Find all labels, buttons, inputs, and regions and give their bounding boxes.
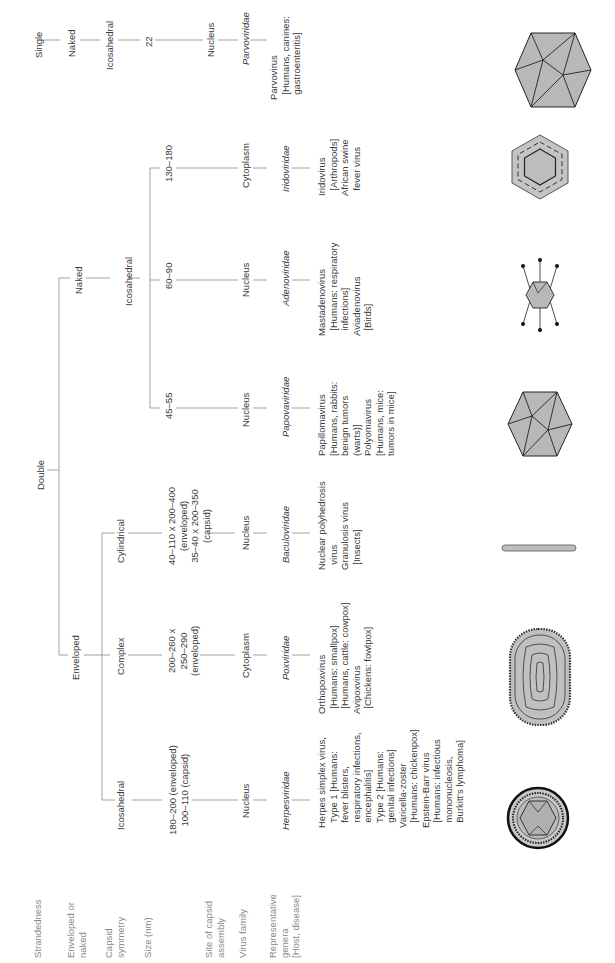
rod-icon: [502, 545, 576, 551]
icosahedron-icon: [508, 392, 572, 456]
virus-illustrations: [0, 0, 615, 963]
icosahedron-fibers-icon: [521, 258, 559, 332]
virus-classification-diagram: Strandedness Enveloped or naked Capsid s…: [0, 0, 615, 963]
brick-icon: [510, 629, 570, 725]
enveloped-icosahedron-icon: [508, 788, 568, 848]
icosahedron-icon: [515, 33, 591, 107]
hexagon-layered-icon: [512, 135, 568, 199]
